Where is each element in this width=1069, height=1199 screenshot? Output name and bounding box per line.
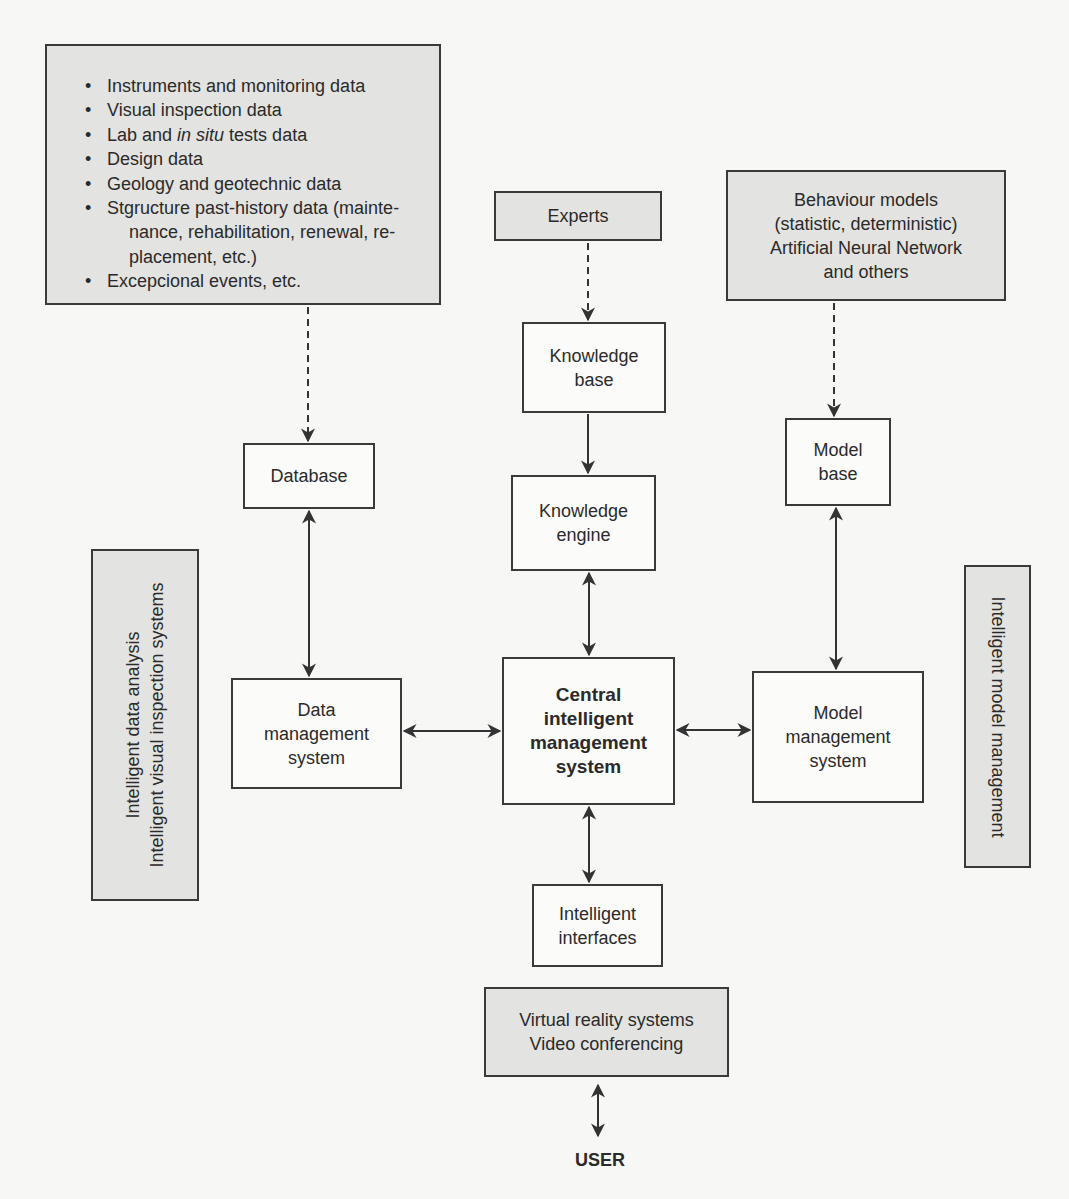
connector-arrows: [0, 0, 1069, 1199]
